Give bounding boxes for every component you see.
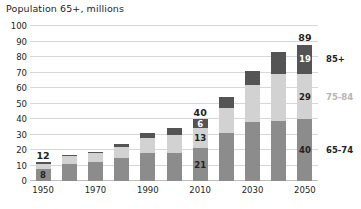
- bar-segment-1950-65-74: 8: [36, 169, 51, 181]
- segment-value-label: 8: [36, 171, 51, 180]
- bar-segment-2030-65-74: [245, 122, 260, 181]
- plot-area: 812211364040291989: [30, 26, 318, 181]
- segment-value-label: 6: [193, 119, 208, 128]
- bar-segment-2000-85+: [167, 128, 182, 134]
- population-65plus-stacked-bar-chart: Population 65+, millions 010203040506070…: [0, 0, 361, 209]
- bar-2020: [219, 97, 234, 181]
- bar-segment-2000-65-74: [167, 153, 182, 181]
- y-tick-label: 100: [3, 21, 27, 31]
- segment-value-label: 29: [297, 92, 312, 101]
- y-tick-label: 0: [3, 176, 27, 186]
- bar-1980: [114, 144, 129, 181]
- series-label-75-84: 75-84: [326, 92, 353, 102]
- bar-2030: [245, 71, 260, 181]
- chart-title: Population 65+, millions: [6, 3, 124, 14]
- bar-total-label-1950: 12: [36, 151, 49, 161]
- bar-1990: [140, 133, 155, 181]
- bar-segment-1970-85+: [88, 152, 103, 154]
- segment-value-label: 19: [297, 55, 312, 64]
- bar-segment-2030-85+: [245, 71, 260, 85]
- segment-value-label: 40: [297, 146, 312, 155]
- bar-segment-1950-75-84: [36, 164, 51, 169]
- bar-total-label-2050: 89: [298, 33, 311, 43]
- bar-segment-2020-65-74: [219, 133, 234, 181]
- bar-segment-2010-85+: 6: [193, 119, 208, 128]
- x-tick-label: 2030: [242, 185, 264, 195]
- series-label-65-74: 65-74: [326, 145, 353, 155]
- bar-segment-1990-75-84: [140, 138, 155, 154]
- y-tick-label: 20: [3, 145, 27, 155]
- series-label-85+: 85+: [326, 54, 345, 64]
- bar-segment-1980-65-74: [114, 158, 129, 181]
- bar-segment-1960-75-84: [62, 156, 77, 164]
- bar-segment-1960-85+: [62, 155, 77, 157]
- segment-value-label: 13: [193, 134, 208, 143]
- bar-segment-1970-75-84: [88, 153, 103, 162]
- series-legend: 85+75-8465-74: [326, 0, 361, 209]
- bar-segment-2030-75-84: [245, 85, 260, 122]
- x-tick-label: 1950: [32, 185, 54, 195]
- bar-segment-2040-85+: [271, 52, 286, 74]
- bar-segment-2050-75-84: 29: [297, 74, 312, 119]
- bar-2000: [167, 128, 182, 181]
- bar-segment-1970-65-74: [88, 162, 103, 181]
- y-tick-label: 40: [3, 114, 27, 124]
- y-tick-label: 30: [3, 130, 27, 140]
- x-tick-label: 1990: [137, 185, 159, 195]
- bar-1970: [88, 152, 103, 181]
- bar-1950: 812: [36, 162, 51, 181]
- bar-segment-1980-75-84: [114, 147, 129, 158]
- bar-segment-2010-65-74: 21: [193, 148, 208, 181]
- bar-2010: 2113640: [193, 119, 208, 181]
- gridline-100: [30, 25, 318, 26]
- bar-segment-1990-85+: [140, 133, 155, 138]
- x-axis: 195019701990201020302050: [30, 183, 318, 199]
- bar-total-label-2010: 40: [194, 108, 207, 118]
- bar-segment-2050-85+: 19: [297, 45, 312, 74]
- bar-segment-2040-75-84: [271, 74, 286, 121]
- y-tick-label: 60: [3, 83, 27, 93]
- x-tick-label: 2010: [189, 185, 211, 195]
- bar-segment-2020-75-84: [219, 108, 234, 133]
- x-tick-label: 2050: [294, 185, 316, 195]
- x-tick-label: 1970: [85, 185, 107, 195]
- segment-value-label: 21: [193, 160, 208, 169]
- y-tick-label: 10: [3, 161, 27, 171]
- bar-2050: 40291989: [297, 45, 312, 181]
- bar-segment-1990-65-74: [140, 153, 155, 181]
- y-tick-label: 80: [3, 52, 27, 62]
- bar-segment-2020-85+: [219, 97, 234, 108]
- bar-segment-2050-65-74: 40: [297, 119, 312, 181]
- bar-2040: [271, 52, 286, 181]
- y-tick-label: 50: [3, 99, 27, 109]
- bar-segment-1980-85+: [114, 144, 129, 147]
- gridline-90: [30, 41, 318, 42]
- bar-segment-1950-85+: [36, 162, 51, 164]
- bar-segment-2010-75-84: 13: [193, 128, 208, 148]
- bar-segment-2000-75-84: [167, 135, 182, 154]
- y-axis: 0102030405060708090100: [0, 26, 27, 181]
- bar-segment-2040-65-74: [271, 121, 286, 181]
- bar-1960: [62, 155, 77, 181]
- y-tick-label: 70: [3, 68, 27, 78]
- bar-segment-1960-65-74: [62, 164, 77, 181]
- y-tick-label: 90: [3, 37, 27, 47]
